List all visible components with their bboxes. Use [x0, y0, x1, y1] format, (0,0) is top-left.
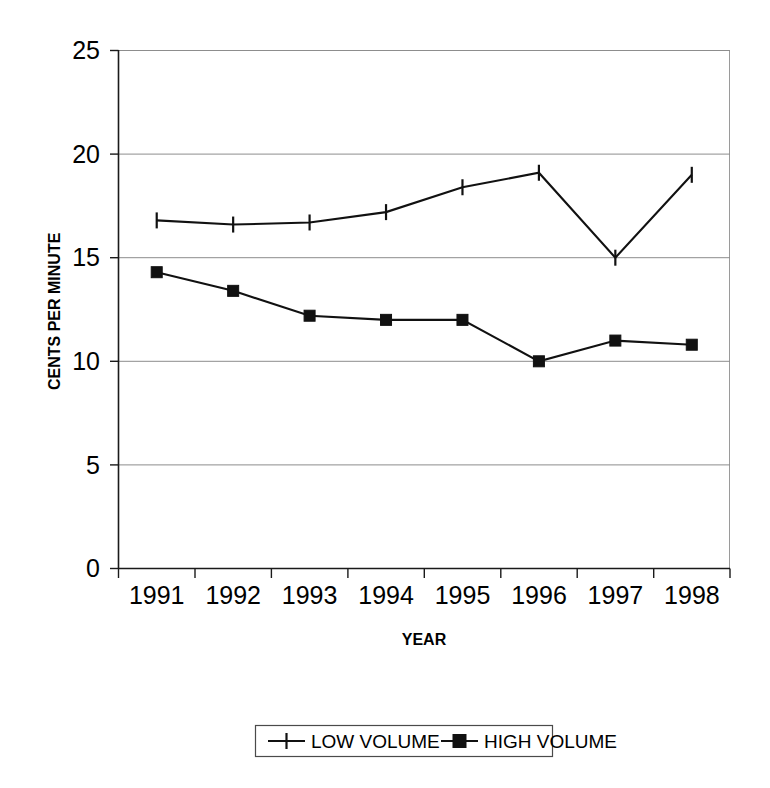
xtick-label-1993: 1993: [282, 581, 338, 609]
chart-figure: 25 20 15 10 5 0 CENTS PER MINUTE 1991 19…: [0, 0, 770, 788]
ytick-label-10: 10: [72, 347, 100, 375]
data-point-square-1996: [533, 356, 544, 367]
gridlines-y: [118, 51, 730, 465]
xtick-label-1992: 1992: [205, 581, 261, 609]
legend-square-icon: [453, 735, 466, 748]
ytick-label-15: 15: [72, 243, 100, 271]
y-axis-title: CENTS PER MINUTE: [46, 232, 63, 390]
xtick-label-1995: 1995: [435, 581, 491, 609]
legend-label-high-volume: HIGH VOLUME: [484, 731, 617, 752]
series-line-0: [157, 173, 692, 258]
x-tick-marks: [119, 569, 731, 579]
line-chart-canvas: 25 20 15 10 5 0 CENTS PER MINUTE 1991 19…: [0, 0, 770, 788]
series-layer: [151, 165, 697, 367]
legend-label-low-volume: LOW VOLUME: [311, 731, 440, 752]
data-point-square-1998: [686, 339, 697, 350]
series-low-volume: [157, 165, 692, 266]
ytick-label-25: 25: [72, 36, 100, 64]
plot-area-frame: [119, 51, 730, 569]
data-point-square-1992: [228, 285, 239, 296]
ytick-label-0: 0: [86, 554, 100, 582]
data-point-square-1997: [610, 335, 621, 346]
xtick-label-1997: 1997: [588, 581, 644, 609]
data-point-square-1994: [381, 314, 392, 325]
x-axis-title: YEAR: [402, 631, 447, 648]
data-point-square-1995: [457, 314, 468, 325]
data-point-square-1993: [304, 310, 315, 321]
ytick-label-20: 20: [72, 140, 100, 168]
data-point-square-1991: [151, 267, 162, 278]
ytick-label-5: 5: [86, 451, 100, 479]
series-high-volume: [151, 267, 697, 367]
xtick-label-1994: 1994: [358, 581, 414, 609]
xtick-label-1991: 1991: [129, 581, 185, 609]
xtick-label-1996: 1996: [511, 581, 567, 609]
y-tick-marks: [110, 51, 119, 569]
xtick-label-1998: 1998: [664, 581, 720, 609]
chart-legend: LOW VOLUME HIGH VOLUME: [256, 726, 618, 757]
